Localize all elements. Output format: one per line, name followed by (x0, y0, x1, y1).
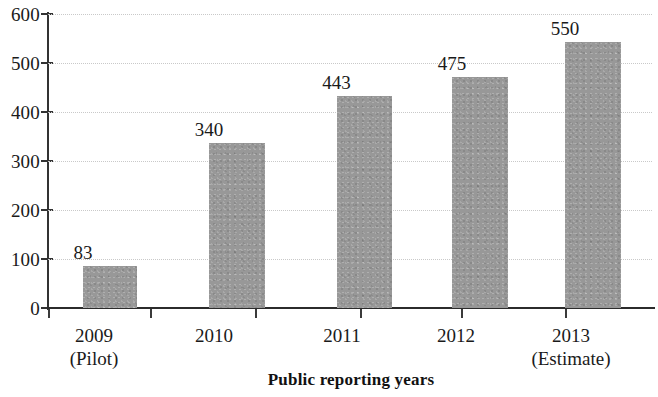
x-axis-title-text: Public reporting years (268, 370, 435, 390)
x-tick-mark-3 (360, 309, 362, 318)
bar-value-2011: 443 (309, 73, 364, 92)
bar-value-2012: 475 (424, 54, 480, 73)
bar-2012 (452, 77, 508, 308)
y-tick-label-500: 500 (2, 54, 40, 73)
x-category-label-2011: 2011 (300, 324, 384, 347)
bar-2009 (83, 266, 137, 308)
y-axis-labels: 600 500 400 300 200 100 0 (0, 0, 40, 397)
plot-area (48, 14, 652, 308)
bar-2013 (565, 42, 621, 308)
y-tick-label-0: 0 (2, 299, 40, 318)
x-tick-mark-0 (48, 309, 50, 318)
gridline-600 (48, 14, 652, 15)
x-tick-mark-1 (150, 309, 152, 318)
bar-chart: 600 500 400 300 200 100 0 83 340 443 475… (0, 0, 658, 397)
x-category-year-2009: 2009 (75, 325, 113, 346)
y-tick-label-300: 300 (2, 152, 40, 171)
bar-2010 (209, 143, 265, 308)
x-tick-mark-2 (255, 309, 257, 318)
x-tick-mark-5 (565, 309, 567, 318)
x-axis-title: Public reporting years (0, 370, 658, 390)
x-tick-mark-4 (461, 309, 463, 318)
y-tick-label-100: 100 (2, 250, 40, 269)
x-category-year-2010: 2010 (195, 325, 233, 346)
bar-value-2013: 550 (537, 19, 593, 38)
x-category-year-2013: 2013 (552, 325, 590, 346)
y-tick-label-400: 400 (2, 103, 40, 122)
bar-value-2010: 340 (181, 120, 237, 139)
gridline-500 (48, 63, 652, 64)
x-category-label-2009: 2009 (Pilot) (52, 324, 136, 370)
bar-2011 (337, 96, 392, 308)
y-tick-label-200: 200 (2, 201, 40, 220)
x-category-label-2010: 2010 (172, 324, 256, 347)
x-category-label-2012: 2012 (414, 324, 498, 347)
x-category-label-2013: 2013 (Estimate) (528, 324, 614, 370)
bar-value-2009: 83 (56, 243, 110, 262)
x-category-sub-2009: (Pilot) (52, 347, 136, 370)
x-category-year-2011: 2011 (323, 325, 360, 346)
y-tick-label-600: 600 (2, 5, 40, 24)
x-category-year-2012: 2012 (437, 325, 475, 346)
x-category-sub-2013: (Estimate) (528, 347, 614, 370)
